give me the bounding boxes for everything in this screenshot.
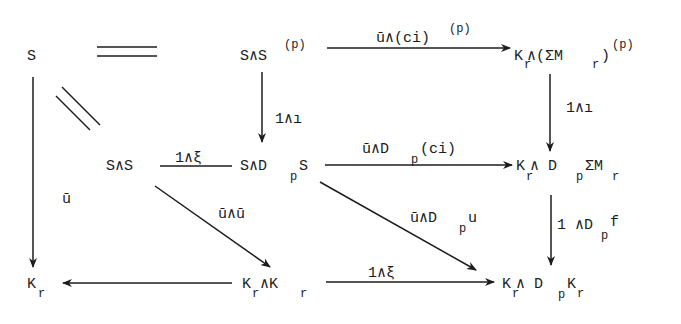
node-s-smash-s: S∧S: [106, 158, 133, 175]
node-part-sub: p: [576, 170, 583, 184]
node-s-smash-s-p-base: S∧S: [240, 48, 267, 65]
label-mid-right-horizontal: ū∧D p (ci): [362, 141, 456, 167]
label-part-sup: (p): [449, 22, 471, 36]
label-bottom-right-horizontal: 1∧ξ: [368, 265, 395, 282]
label-left-vertical: ū: [62, 191, 71, 208]
label-diag-left: ū∧ū: [218, 206, 245, 223]
node-part: ΣM: [585, 158, 603, 175]
label-part-sub: p: [459, 222, 466, 236]
node-part-sub: r: [592, 58, 599, 72]
equality-diagonal: [56, 87, 100, 130]
node-part: S∧D: [240, 158, 267, 175]
node-part: K: [27, 276, 36, 293]
node-part: K: [567, 276, 576, 293]
node-part-sub: p: [290, 170, 297, 184]
equality-top: [97, 47, 157, 56]
node-part: K: [242, 276, 251, 293]
label-part: u: [468, 210, 477, 227]
node-part: ∧(ΣM: [527, 48, 563, 65]
label-mid-vertical: 1∧ı: [275, 111, 302, 128]
node-part: K: [516, 158, 525, 175]
node-part-sub: r: [300, 287, 307, 301]
node-kr-left: K r: [27, 276, 45, 301]
node-kr-smash-dp-sigma-mr: K r ∧ D p ΣM r: [516, 158, 619, 184]
label-part: 1 ∧D: [557, 217, 593, 234]
label-part: f: [610, 214, 619, 231]
node-kr-smash-dp-kr: K r ∧ D p K r: [502, 276, 584, 302]
node-part: ): [601, 48, 610, 65]
label-right-bottom-vertical: 1 ∧D p f: [557, 214, 619, 243]
node-s-top: S: [27, 48, 36, 65]
arrow-diag-left: [155, 186, 270, 267]
node-s-smash-dp-s: S∧D p S: [240, 158, 308, 184]
label-part-sub: p: [601, 229, 608, 243]
node-part-sub: r: [577, 287, 584, 301]
node-s-smash-s-p-sup: (p): [284, 38, 306, 52]
label-diag-right: ū∧D p u: [410, 210, 477, 236]
label-part: ū∧D: [410, 210, 437, 227]
node-part-sub: p: [558, 288, 565, 302]
node-part-sup: (p): [612, 38, 634, 52]
label-part: (ci): [420, 141, 456, 158]
node-part: ∧K: [260, 276, 278, 293]
commutative-diagram: S S∧S (p) K r ∧(ΣM r ) (p) S∧S S∧D p S K…: [0, 0, 681, 324]
label-mid-left-horizontal: 1∧ξ: [175, 150, 202, 167]
node-part-sub: r: [612, 170, 619, 184]
node-part: K: [502, 276, 511, 293]
node-part-sub: r: [38, 287, 45, 301]
label-right-top-vertical: 1∧ı: [566, 100, 593, 117]
node-s-smash-s-p: S∧S (p): [240, 38, 306, 65]
label-part: ū∧D: [362, 141, 389, 158]
node-part: ∧ D: [530, 158, 557, 175]
label-part: ū∧(ci): [376, 30, 430, 47]
node-part: S: [299, 158, 308, 175]
arrow-diag-right: [320, 182, 476, 270]
node-part: ∧ D: [516, 276, 543, 293]
label-part-sub: p: [411, 153, 418, 167]
node-part: K: [514, 48, 523, 65]
label-top-horizontal: ū∧(ci) (p): [376, 22, 471, 47]
node-kr-smash-kr: K r ∧K r: [242, 276, 307, 301]
node-part-sub: r: [252, 287, 259, 301]
node-kr-smash-sigma-mr-p: K r ∧(ΣM r ) (p): [514, 38, 634, 72]
